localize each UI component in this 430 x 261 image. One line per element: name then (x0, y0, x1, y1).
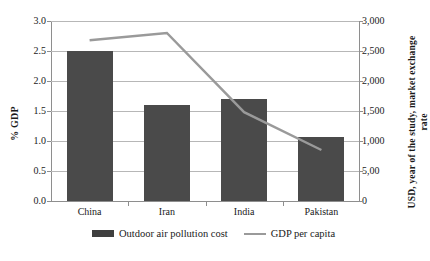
y-tick-label-right: 3,000 (362, 16, 402, 26)
y-tick-label-right: 2,000 (362, 76, 402, 86)
legend-item-outdoor-air-pollution-cost: Outdoor air pollution cost (92, 228, 228, 239)
legend-label: GDP per capita (271, 228, 335, 239)
x-tick-label: Iran (127, 206, 207, 218)
plot-area (51, 21, 360, 201)
y-tick-label-left: 1.5 (8, 106, 46, 116)
chart-legend: Outdoor air pollution cost GDP per capit… (0, 228, 427, 239)
y-axis-left-ticks: 0.00.51.01.52.02.53.0 (8, 0, 46, 261)
y-tick-label-right: 0 (362, 196, 402, 206)
y-tick-label-right: 1,500 (362, 106, 402, 116)
line-series (51, 21, 360, 202)
y-tick-label-left: 2.5 (8, 46, 46, 56)
y-tick-label-left: 2.0 (8, 76, 46, 86)
legend-label: Outdoor air pollution cost (119, 228, 228, 239)
bar-swatch-icon (92, 230, 114, 237)
y-axis-right-title: USD, year of the study, market exchange … (406, 34, 430, 210)
y-axis-right-ticks: 05,001,0001,5002,0002,5003,000 (362, 0, 402, 261)
y-tick-label-left: 1.0 (8, 136, 46, 146)
x-tick-label: Pakistan (281, 206, 361, 218)
x-tick-label: China (50, 206, 130, 218)
y-tick-label-right: 1,000 (362, 136, 402, 146)
line-swatch-icon (244, 233, 266, 235)
y-tick-label-left: 3.0 (8, 16, 46, 26)
y-tick-label-right: 2,500 (362, 46, 402, 56)
y-tick-label-left: 0.0 (8, 196, 46, 206)
y-tick-label-left: 0.5 (8, 166, 46, 176)
legend-item-gdp-per-capita: GDP per capita (244, 228, 335, 239)
y-tick-label-right: 5,00 (362, 166, 402, 176)
x-tick-label: India (204, 206, 284, 218)
